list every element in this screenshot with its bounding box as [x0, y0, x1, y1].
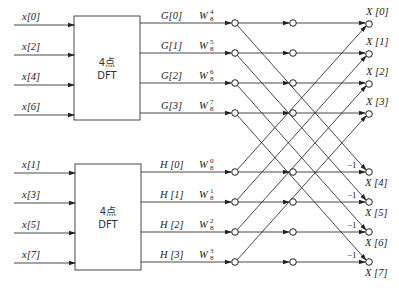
twiddle-w80: W 0 8	[199, 157, 214, 172]
svg-text:W: W	[199, 159, 209, 170]
node-c1-7	[232, 259, 239, 266]
h-label: H [0]	[159, 159, 184, 170]
negation-label: −1	[347, 250, 357, 260]
node-c2-5	[290, 199, 297, 206]
node-c2-3	[290, 110, 297, 117]
output-label: X [7]	[364, 267, 387, 278]
svg-text:W: W	[199, 249, 209, 260]
block-even-label-1: 4点	[99, 57, 115, 68]
block-even-label-2: DFT	[97, 70, 117, 81]
negation-label: −1	[347, 220, 357, 230]
block-odd-label-1: 4点	[100, 206, 116, 217]
fft-flow-diagram: 4点 DFT 4点 DFT x[0] x[2] x[4] x[6] x[1] x…	[0, 0, 399, 288]
node-c1-0	[232, 20, 239, 27]
svg-text:8: 8	[210, 194, 214, 202]
node-c1-1	[232, 50, 239, 57]
node-c1-6	[232, 229, 239, 236]
node-c1-4	[232, 169, 239, 176]
twiddle-w84: W 4 8	[199, 8, 214, 23]
twiddle-w81: W 1 8	[199, 187, 214, 202]
svg-text:8: 8	[210, 75, 214, 83]
node-out-2	[366, 81, 373, 88]
input-label: x[6]	[21, 101, 40, 112]
node-c2-1	[290, 50, 297, 57]
g-label: G[1]	[161, 40, 182, 51]
svg-text:W: W	[199, 189, 209, 200]
node-out-6	[366, 229, 373, 236]
output-label: X [3]	[365, 96, 388, 107]
input-label: x[4]	[21, 71, 40, 82]
svg-text:8: 8	[210, 164, 214, 172]
h-label: H [2]	[159, 219, 184, 230]
twiddle-w82: W 2 8	[199, 217, 214, 232]
svg-text:8: 8	[210, 105, 214, 113]
svg-text:W: W	[199, 70, 209, 81]
node-out-3	[366, 111, 373, 118]
svg-text:8: 8	[210, 45, 214, 53]
h-label: H [3]	[159, 249, 184, 260]
svg-text:W: W	[199, 219, 209, 230]
dft-block-even	[74, 16, 140, 120]
output-label: X [0]	[365, 6, 388, 17]
svg-text:W: W	[199, 40, 209, 51]
twiddle-w86: W 6 8	[199, 68, 214, 83]
block-odd-label-2: DFT	[98, 219, 118, 230]
node-c2-6	[290, 229, 297, 236]
input-label: x[1]	[21, 159, 40, 170]
node-c1-5	[232, 199, 239, 206]
twiddle-w83: W 3 8	[199, 247, 214, 262]
input-label: x[7]	[21, 249, 40, 260]
twiddle-w85: W 5 8	[199, 38, 214, 53]
node-c2-2	[290, 80, 297, 87]
output-label: X [2]	[365, 66, 388, 77]
g-label: G[2]	[161, 70, 182, 81]
svg-text:W: W	[199, 10, 209, 21]
negation-label: −1	[347, 190, 357, 200]
dft-block-odd	[75, 164, 141, 270]
node-out-1	[366, 51, 373, 58]
input-label: x[5]	[21, 219, 40, 230]
g-label: G[0]	[161, 10, 182, 21]
node-out-4	[366, 169, 373, 176]
output-label: X [1]	[365, 36, 388, 47]
node-out-0	[366, 21, 373, 28]
svg-text:W: W	[199, 100, 209, 111]
svg-text:8: 8	[210, 224, 214, 232]
g-label: G[3]	[161, 100, 182, 111]
node-c2-0	[290, 20, 297, 27]
node-c1-2	[232, 80, 239, 87]
input-label: x[2]	[21, 41, 40, 52]
svg-text:8: 8	[210, 254, 214, 262]
h-label: H [1]	[159, 189, 184, 200]
input-label: x[3]	[21, 189, 40, 200]
output-label: X [5]	[364, 207, 387, 218]
negation-label: −1	[347, 160, 357, 170]
twiddle-w87: W 7 8	[199, 98, 214, 113]
node-c2-7	[290, 259, 297, 266]
node-out-5	[366, 199, 373, 206]
output-label: X [4]	[364, 177, 387, 188]
node-out-7	[366, 259, 373, 266]
output-label: X [6]	[364, 237, 387, 248]
node-c2-4	[290, 169, 297, 176]
svg-text:8: 8	[210, 15, 214, 23]
node-c1-3	[232, 110, 239, 117]
input-label: x[0]	[21, 11, 40, 22]
